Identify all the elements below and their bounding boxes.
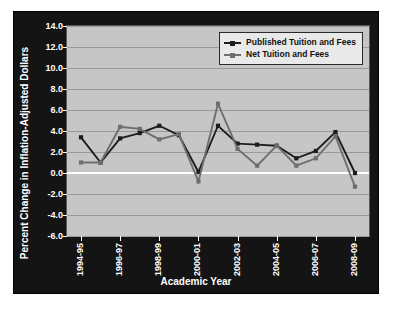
data-point (79, 160, 83, 164)
y-tick-label: 2.0 (50, 148, 63, 157)
y-tick-label: 12.0 (45, 43, 63, 52)
data-point (157, 137, 161, 141)
x-tick-mark (316, 236, 317, 241)
data-point (98, 160, 102, 164)
data-point (294, 156, 298, 160)
data-point (353, 185, 357, 189)
data-point (235, 147, 239, 151)
x-tick-mark (81, 236, 82, 241)
legend-item-published: Published Tuition and Fees (224, 37, 356, 48)
x-tick-mark (355, 236, 356, 241)
x-tick-mark (159, 236, 160, 241)
data-point (255, 164, 259, 168)
data-point (138, 131, 142, 135)
y-tick-label: -4.0 (47, 211, 63, 220)
x-tick-label: 1998-99 (154, 243, 163, 276)
gridline (67, 236, 369, 237)
x-axis-title: Academic Year (14, 276, 378, 287)
chart-legend: Published Tuition and Fees Net Tuition a… (219, 32, 363, 65)
y-tick-label: -6.0 (47, 232, 63, 241)
y-tick-label: -2.0 (47, 190, 63, 199)
x-tick-mark (277, 236, 278, 241)
y-axis-title: Percent Change in Inflation-Adjusted Dol… (19, 46, 30, 258)
series-net-tuition-and-fees (79, 102, 357, 189)
data-point (196, 179, 200, 183)
legend-swatch-published-icon (224, 38, 241, 47)
data-point (177, 132, 181, 136)
data-point (118, 136, 122, 140)
x-tick-label: 1996-97 (115, 243, 124, 276)
data-point (275, 144, 279, 148)
legend-swatch-net-icon (224, 50, 241, 59)
data-point (118, 125, 122, 129)
y-tick-label: 14.0 (45, 22, 63, 31)
x-tick-mark (238, 236, 239, 241)
data-point (333, 134, 337, 138)
y-tick-label: 8.0 (50, 85, 63, 94)
data-point (157, 124, 161, 128)
data-point (255, 143, 259, 147)
x-tick-mark (120, 236, 121, 241)
x-tick-label: 2008-09 (350, 243, 359, 276)
x-tick-mark (198, 236, 199, 241)
x-tick-label: 2000-01 (193, 243, 202, 276)
x-tick-label: 2006-07 (311, 243, 320, 276)
data-point (353, 171, 357, 175)
y-tick-label: 10.0 (45, 64, 63, 73)
data-point (79, 135, 83, 139)
series-line (81, 104, 355, 187)
legend-label-published: Published Tuition and Fees (246, 38, 356, 47)
y-tick-label: 0.0 (50, 169, 63, 178)
y-tick-label: 4.0 (50, 127, 63, 136)
series-published-tuition-and-fees (79, 124, 357, 175)
y-tick-label: 6.0 (50, 106, 63, 115)
y-tick-mark (63, 236, 67, 237)
data-point (314, 156, 318, 160)
chart-screenshot: Percent Change in Inflation-Adjusted Dol… (0, 0, 393, 310)
data-point (314, 149, 318, 153)
plot-area: 14.012.010.08.06.04.02.00.0-2.0-4.0-6.0 … (66, 25, 370, 237)
x-tick-label: 2004-05 (272, 243, 281, 276)
data-point (216, 124, 220, 128)
x-tick-label: 1994-95 (76, 243, 85, 276)
data-point (216, 102, 220, 106)
legend-label-net: Net Tuition and Fees (246, 50, 329, 59)
legend-item-net: Net Tuition and Fees (224, 49, 356, 60)
data-point (333, 130, 337, 134)
data-point (138, 127, 142, 131)
chart-frame: Percent Change in Inflation-Adjusted Dol… (13, 11, 379, 294)
data-point (294, 164, 298, 168)
x-tick-label: 2002-03 (233, 243, 242, 276)
